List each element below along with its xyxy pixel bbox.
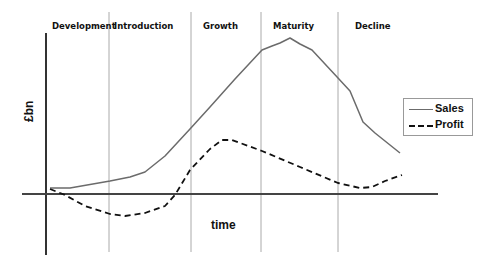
dashed-line-icon — [409, 125, 433, 127]
stage-dividers — [109, 12, 338, 252]
stage-label-introduction: Introduction — [114, 21, 173, 31]
sales-line — [50, 38, 400, 188]
legend-label-sales: Sales — [435, 102, 464, 114]
legend-item-sales: Sales — [404, 101, 472, 117]
x-axis-label: time — [211, 218, 236, 232]
legend: Sales Profit — [403, 98, 473, 136]
legend-label-profit: Profit — [435, 118, 464, 130]
solid-line-icon — [409, 109, 433, 110]
y-axis-label: £bn — [22, 101, 36, 122]
stage-label-growth: Growth — [203, 21, 238, 31]
stage-label-decline: Decline — [355, 21, 391, 31]
legend-item-profit: Profit — [404, 117, 472, 133]
stage-label-maturity: Maturity — [273, 21, 314, 31]
profit-line — [50, 140, 402, 216]
stage-label-development: Development — [52, 21, 116, 31]
